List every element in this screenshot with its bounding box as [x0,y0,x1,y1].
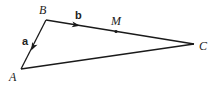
label-vector-a: a [22,35,29,47]
label-vector-b: b [75,9,82,21]
label-a-point: A [8,70,17,84]
label-m-point: M [110,14,122,28]
label-b-point: B [39,3,47,17]
side-ac [21,44,194,69]
triangle-diagram: A B C M a b [0,0,216,87]
midpoint-m-dot [114,30,117,33]
label-c-point: C [199,39,208,53]
